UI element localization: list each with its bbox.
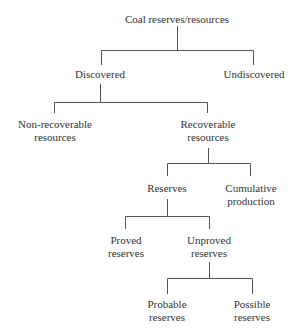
edge-discovered	[55, 84, 208, 113]
node-label-line2: reserves	[187, 247, 231, 260]
connector-lines	[0, 0, 290, 336]
node-undiscovered: Undiscovered	[223, 68, 284, 81]
node-label-line2: reserves	[147, 311, 186, 324]
node-label: Coal reserves/resources	[125, 13, 229, 26]
node-label-line1: Proved	[108, 234, 144, 247]
node-label: Discovered	[75, 68, 125, 81]
node-unproved-reserves: Unproved reserves	[187, 234, 231, 260]
edge-reserves	[126, 199, 210, 229]
node-label: Reserves	[147, 182, 187, 195]
node-label-line2: production	[225, 195, 276, 208]
node-label-line1: Non-recoverable	[18, 118, 92, 131]
node-recoverable-resources: Recoverable resources	[181, 118, 236, 144]
node-label-line1: Possible	[234, 298, 271, 311]
node-label-line1: Recoverable	[181, 118, 236, 131]
node-label-line2: resources	[181, 131, 236, 144]
node-possible-reserves: Possible reserves	[234, 298, 271, 324]
node-label-line1: Unproved	[187, 234, 231, 247]
node-probable-reserves: Probable reserves	[147, 298, 186, 324]
node-discovered: Discovered	[75, 68, 125, 81]
node-reserves: Reserves	[147, 182, 187, 195]
node-coal-reserves-resources: Coal reserves/resources	[125, 13, 229, 26]
node-proved-reserves: Proved reserves	[108, 234, 144, 260]
edge-recoverable	[168, 148, 251, 176]
node-cumulative-production: Cumulative production	[225, 182, 276, 208]
node-label-line2: reserves	[108, 247, 144, 260]
node-label-line1: Cumulative	[225, 182, 276, 195]
node-label-line2: reserves	[234, 311, 271, 324]
node-label-line2: resources	[18, 131, 92, 144]
node-label: Undiscovered	[223, 68, 284, 81]
edge-unproved	[168, 262, 253, 294]
node-label-line1: Probable	[147, 298, 186, 311]
edge-root	[102, 26, 254, 65]
node-non-recoverable-resources: Non-recoverable resources	[18, 118, 92, 144]
